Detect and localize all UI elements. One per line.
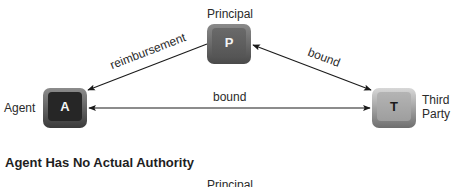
- principal-letter: P: [225, 35, 234, 50]
- section-heading: Agent Has No Actual Authority: [5, 155, 194, 170]
- third-party-letter: T: [390, 99, 398, 114]
- third-party-label-line2: Party: [422, 107, 450, 121]
- agent-third-party-edge-label: bound: [213, 90, 246, 104]
- third-party-label-line1: Third: [422, 93, 449, 107]
- agent-node: A: [43, 88, 87, 128]
- agent-letter: A: [60, 99, 69, 114]
- principal-node: P: [207, 24, 251, 64]
- principal-label: Principal: [207, 7, 253, 21]
- third-party-node: T: [372, 88, 416, 128]
- agent-label: Agent: [4, 101, 35, 115]
- next-principal-label: Principal: [207, 178, 253, 187]
